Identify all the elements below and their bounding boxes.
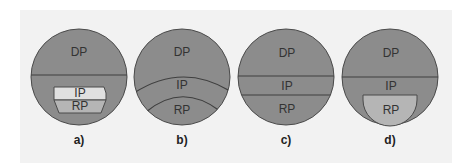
label-rp-a: RP — [72, 99, 89, 113]
label-ip-a: IP — [74, 86, 85, 100]
label-ip-d: IP — [385, 79, 396, 93]
label-rp-b: RP — [174, 103, 191, 117]
label-rp-c: RP — [279, 102, 296, 116]
caption-d: d) — [384, 133, 395, 147]
caption-a: a) — [74, 133, 85, 147]
label-dp-c: DP — [279, 46, 296, 60]
label-ip-b: IP — [176, 78, 187, 92]
panel-d: DP IP RP d) — [342, 29, 438, 147]
label-rp-d: RP — [383, 103, 400, 117]
label-dp-d: DP — [383, 46, 400, 60]
label-dp-a: DP — [71, 45, 88, 59]
caption-b: b) — [176, 133, 187, 147]
diagram-canvas: DP IP RP a) DP IP RP b) DP IP RP c) DP I… — [0, 0, 467, 167]
panel-b: DP IP RP b) — [134, 29, 230, 147]
caption-c: c) — [281, 133, 292, 147]
panel-a: DP IP RP a) — [31, 29, 127, 147]
label-dp-b: DP — [174, 45, 191, 59]
panel-c: DP IP RP c) — [238, 29, 334, 147]
label-ip-c: IP — [281, 79, 292, 93]
